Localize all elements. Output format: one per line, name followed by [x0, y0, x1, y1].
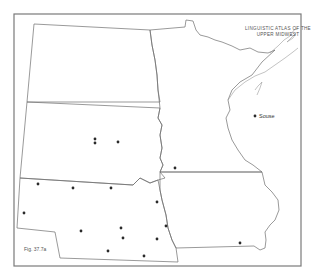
lake-superior-shore — [228, 48, 298, 100]
observation-dot — [122, 237, 125, 240]
observation-dot — [120, 227, 123, 230]
observation-dot — [143, 255, 146, 258]
observation-dot — [37, 183, 40, 186]
place-label-souse: Souse — [259, 113, 275, 119]
state-south-dakota — [20, 102, 165, 185]
observation-dot — [239, 242, 242, 245]
observation-dot — [110, 187, 113, 190]
state-north-dakota — [27, 24, 160, 102]
atlas-title-line2: UPPER MIDWEST — [240, 32, 316, 38]
observation-dot — [254, 115, 257, 118]
observation-dot — [165, 225, 168, 228]
observation-dot — [156, 201, 159, 204]
map-canvas — [0, 0, 316, 278]
green-bay-shore — [255, 82, 262, 95]
observation-dot — [94, 138, 97, 141]
observation-dot — [80, 230, 83, 233]
observation-dot — [107, 250, 110, 253]
observation-dot — [23, 212, 26, 215]
atlas-title: LINGUISTIC ATLAS OF THE UPPER MIDWEST — [240, 26, 316, 38]
observation-dot — [94, 142, 97, 145]
observation-dot — [174, 167, 177, 170]
map-figure: LINGUISTIC ATLAS OF THE UPPER MIDWEST So… — [0, 0, 316, 278]
figure-label: Fig. 37.7a — [24, 246, 46, 252]
observation-dots — [23, 115, 257, 258]
state-minnesota — [150, 20, 275, 172]
observation-dot — [156, 238, 159, 241]
observation-dot — [72, 187, 75, 190]
state-iowa — [160, 172, 279, 250]
observation-dot — [117, 141, 120, 144]
